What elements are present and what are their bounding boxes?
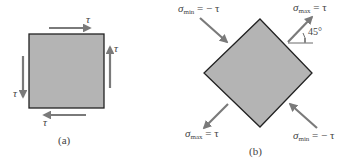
sigma-min-label-bottom-right: σmin = − τ [293,130,334,143]
sigma-min-arrow-bottom-right [290,104,317,128]
angle-label: 45° [308,27,322,37]
sigma-max-label-top-right: σmax = τ [293,2,327,15]
tau-label-right: τ [114,43,118,54]
sigma-min-arrow-top-left [200,18,227,42]
sigma-max-arrow-bottom-left [204,104,228,128]
tau-label-bottom: τ [43,117,47,128]
sigma-max-label-bottom-left: σmax = τ [185,128,219,141]
caption-b: (b) [249,146,262,157]
tau-label-top: τ [86,14,90,25]
shear-element-square [29,34,104,108]
sigma-min-label-top-left: σmin = − τ [178,3,219,16]
caption-a: (a) [58,135,70,146]
tau-label-left: τ [13,88,17,99]
